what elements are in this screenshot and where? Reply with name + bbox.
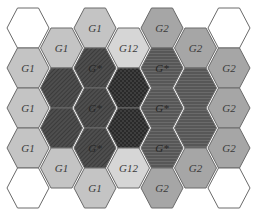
hex-label: G1 [55,42,68,54]
hex-shape-dark-cross [108,108,150,148]
hex-shape-white [208,8,250,48]
hex-cell [7,168,49,208]
hex-shape-dark-horiz [175,68,217,108]
hex-label: G* [88,102,102,114]
hex-cell [41,68,83,108]
hex-cell: G2 [208,48,250,88]
hex-cell [208,168,250,208]
hex-label: G12 [119,42,138,54]
hex-label: G1 [21,142,34,154]
hex-shape-white [208,168,250,208]
hex-cell [7,8,49,48]
hex-cell [175,108,217,148]
hex-cell: G* [74,128,116,168]
hex-cell: G* [141,48,183,88]
hex-shape-white [7,8,49,48]
hex-shape-dark-diag [41,68,83,108]
hex-label: G2 [222,142,236,154]
hex-cell: G1 [74,8,116,48]
hex-cell: G2 [175,148,217,188]
hex-cell [208,8,250,48]
hex-cell: G2 [141,168,183,208]
hex-label: G* [155,102,169,114]
hex-shape-dark-cross [108,68,150,108]
hex-label: G2 [155,182,169,194]
hex-label: G* [155,142,169,154]
hex-cell: G1 [41,148,83,188]
hex-label: G* [88,142,102,154]
hex-cell: G* [74,48,116,88]
hex-cell: G1 [7,88,49,128]
hex-cell: G1 [7,128,49,168]
hex-cell: G* [74,88,116,128]
hex-label: G2 [189,162,203,174]
hex-cell [41,108,83,148]
hex-label: G12 [119,162,138,174]
hex-label: G1 [88,22,101,34]
hex-cell: G2 [208,88,250,128]
hex-cell [175,68,217,108]
hex-cell: G* [141,128,183,168]
hex-cell: G2 [175,28,217,68]
hex-shape-dark-diag [41,108,83,148]
hex-cell: G12 [108,28,150,68]
hex-cell: G2 [208,128,250,168]
hex-shape-white [7,168,49,208]
hex-cell [108,108,150,148]
hex-cell: G12 [108,148,150,188]
hex-cell: G* [141,88,183,128]
hex-label: G1 [55,162,68,174]
hex-cell [108,68,150,108]
hex-label: G1 [21,62,34,74]
hex-cell: G1 [7,48,49,88]
hex-cell: G1 [41,28,83,68]
hex-label: G2 [155,22,169,34]
hex-label: G2 [222,62,236,74]
hex-cell: G1 [74,168,116,208]
hex-cells: G1G1G1G1G1G1G*G*G*G1G12G12G2G*G*G*G2G2G2… [7,8,250,208]
hex-label: G* [88,62,102,74]
hex-grid-diagram: G1G1G1G1G1G1G*G*G*G1G12G12G2G*G*G*G2G2G2… [0,0,254,213]
hex-cell: G2 [141,8,183,48]
hex-label: G2 [222,102,236,114]
hex-label: G1 [88,182,101,194]
hex-shape-dark-horiz [175,108,217,148]
hex-label: G1 [21,102,34,114]
hex-label: G* [155,62,169,74]
hex-label: G2 [189,42,203,54]
